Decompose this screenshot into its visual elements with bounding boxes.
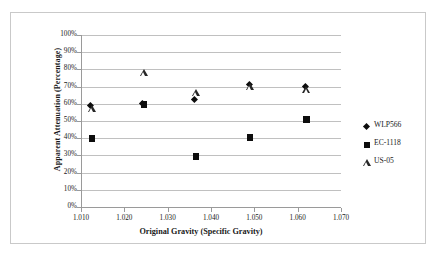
y-axis-tick-labels: 0%10%20%30%40%50%60%70%80%90%100% — [39, 13, 77, 245]
y-tick-label: 20% — [43, 169, 77, 176]
gridline — [81, 121, 341, 122]
x-tick-mark — [168, 208, 169, 212]
gridline — [81, 52, 341, 53]
x-tick-label: 1.050 — [234, 214, 274, 222]
triangle-marker-icon — [302, 93, 310, 100]
gridline — [81, 138, 341, 139]
y-tick-mark — [77, 52, 82, 53]
y-tick-mark — [77, 173, 82, 174]
legend-square-icon — [363, 141, 373, 151]
y-tick-label: 10% — [43, 186, 77, 193]
x-tick-label: 1.030 — [148, 214, 188, 222]
gridline — [81, 155, 341, 156]
legend-triangle-icon — [363, 159, 373, 169]
triangle-marker-icon — [140, 76, 148, 83]
x-axis-ticks — [81, 208, 343, 213]
triangle-marker-icon — [88, 112, 96, 119]
y-tick-mark — [77, 104, 82, 105]
square-marker-icon — [247, 134, 254, 141]
y-tick-mark — [77, 207, 82, 208]
chart-legend: WLP566EC-1118US-05 — [363, 117, 433, 171]
x-tick-label: 1.070 — [321, 214, 361, 222]
y-tick-label: 100% — [43, 31, 77, 38]
square-marker-icon — [141, 101, 148, 108]
y-tick-mark — [77, 35, 82, 36]
chart-frame: Apparent Attenuation (Percentage) 0%10%2… — [10, 12, 426, 244]
x-tick-mark — [341, 208, 342, 212]
y-tick-mark — [77, 138, 82, 139]
legend-diamond-icon — [363, 123, 373, 133]
gridline — [81, 69, 341, 70]
y-tick-mark — [77, 190, 82, 191]
y-tick-mark — [77, 69, 82, 70]
x-tick-mark — [211, 208, 212, 212]
gridline — [81, 173, 341, 174]
x-tick-label: 1.010 — [61, 214, 101, 222]
chart-figure: Apparent Attenuation (Percentage) 0%10%2… — [0, 0, 436, 258]
legend-item: WLP566 — [363, 117, 433, 135]
x-tick-mark — [298, 208, 299, 212]
legend-item: US-05 — [363, 153, 433, 171]
y-tick-mark — [77, 87, 82, 88]
plot-area — [81, 35, 341, 207]
square-marker-icon — [303, 116, 310, 123]
y-tick-label: 30% — [43, 151, 77, 158]
legend-label: EC-1118 — [374, 138, 401, 147]
gridline — [81, 104, 341, 105]
square-marker-icon — [193, 153, 200, 160]
x-tick-label: 1.060 — [278, 214, 318, 222]
y-tick-label: 80% — [43, 65, 77, 72]
x-axis-title: Original Gravity (Specific Gravity) — [51, 227, 351, 236]
legend-label: US-05 — [374, 156, 394, 165]
gridline — [81, 35, 341, 36]
y-tick-label: 70% — [43, 83, 77, 90]
y-tick-mark — [77, 121, 82, 122]
gridline — [81, 190, 341, 191]
x-tick-label: 1.040 — [191, 214, 231, 222]
x-axis-tick-labels: 1.0101.0201.0301.0401.0501.0601.070 — [11, 214, 427, 226]
y-tick-mark — [77, 155, 82, 156]
y-tick-label: 50% — [43, 117, 77, 124]
triangle-marker-icon — [246, 90, 254, 97]
y-tick-label: 40% — [43, 134, 77, 141]
square-marker-icon — [89, 135, 96, 142]
triangle-marker-icon — [192, 96, 200, 103]
x-tick-label: 1.020 — [104, 214, 144, 222]
x-tick-mark — [124, 208, 125, 212]
y-tick-label: 0% — [43, 203, 77, 210]
y-tick-label: 60% — [43, 100, 77, 107]
legend-label: WLP566 — [374, 120, 401, 129]
x-tick-mark — [81, 208, 82, 212]
y-tick-label: 90% — [43, 48, 77, 55]
legend-item: EC-1118 — [363, 135, 433, 153]
x-tick-mark — [254, 208, 255, 212]
